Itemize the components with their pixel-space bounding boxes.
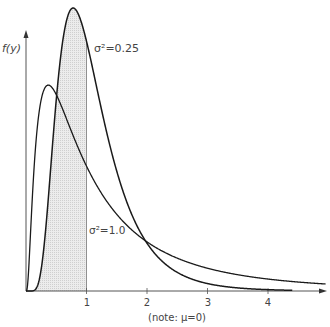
tick-label-2: 2 bbox=[144, 297, 150, 308]
tick-label-4: 4 bbox=[265, 297, 271, 308]
tick-label-3: 3 bbox=[205, 297, 211, 308]
annotation-sigma2-0.25: σ²=0.25 bbox=[94, 42, 139, 55]
lognormal-density-chart: f(y) σ²=0.25 σ²=1.0 1 2 3 4 (note: μ=0) bbox=[0, 0, 330, 327]
y-axis-label: f(y) bbox=[2, 42, 21, 55]
x-axis-arrow-icon bbox=[319, 289, 327, 294]
tick-label-1: 1 bbox=[84, 297, 90, 308]
y-axis-arrow-icon bbox=[24, 30, 29, 38]
x-axis-note: (note: μ=0) bbox=[148, 312, 206, 323]
annotation-sigma2-1.0: σ²=1.0 bbox=[89, 224, 125, 236]
